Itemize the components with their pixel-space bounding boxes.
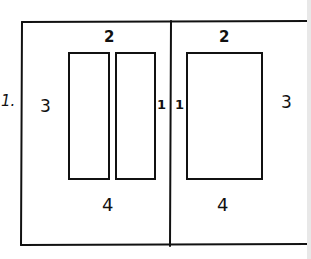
spread-bottom-edge	[21, 244, 309, 245]
stray-mark: 1.	[1, 94, 15, 109]
left-inner-margin-label: 1	[157, 98, 166, 111]
gutter-line	[170, 21, 171, 246]
page-spread-drawing	[0, 0, 311, 259]
left-column-2	[116, 53, 155, 179]
right-inner-margin-label: 1	[175, 98, 184, 111]
diagram-canvas: 1. 2 3 1 4 2 1 3 4	[0, 0, 311, 259]
left-column-1	[69, 53, 109, 179]
right-outer-margin-label: 3	[281, 94, 292, 111]
scan-edge-shadow	[307, 0, 311, 259]
spread-top-edge	[22, 21, 309, 22]
left-bottom-margin-label: 4	[102, 196, 113, 214]
left-top-margin-label: 2	[104, 30, 114, 45]
right-bottom-margin-label: 4	[217, 196, 228, 214]
right-top-margin-label: 2	[219, 30, 229, 45]
right-text-block	[187, 53, 262, 179]
left-outer-margin-label: 3	[40, 98, 51, 115]
spread-left-edge	[21, 22, 22, 245]
